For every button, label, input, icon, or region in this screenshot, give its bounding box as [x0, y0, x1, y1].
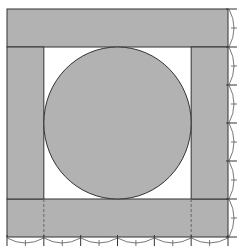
bottom-band	[7, 199, 228, 237]
top-band	[7, 9, 228, 47]
left-band	[7, 47, 44, 199]
inscribed-circle	[44, 47, 191, 199]
geometry-diagram	[0, 0, 239, 249]
right-band	[191, 47, 228, 199]
shapes-layer	[7, 9, 228, 237]
